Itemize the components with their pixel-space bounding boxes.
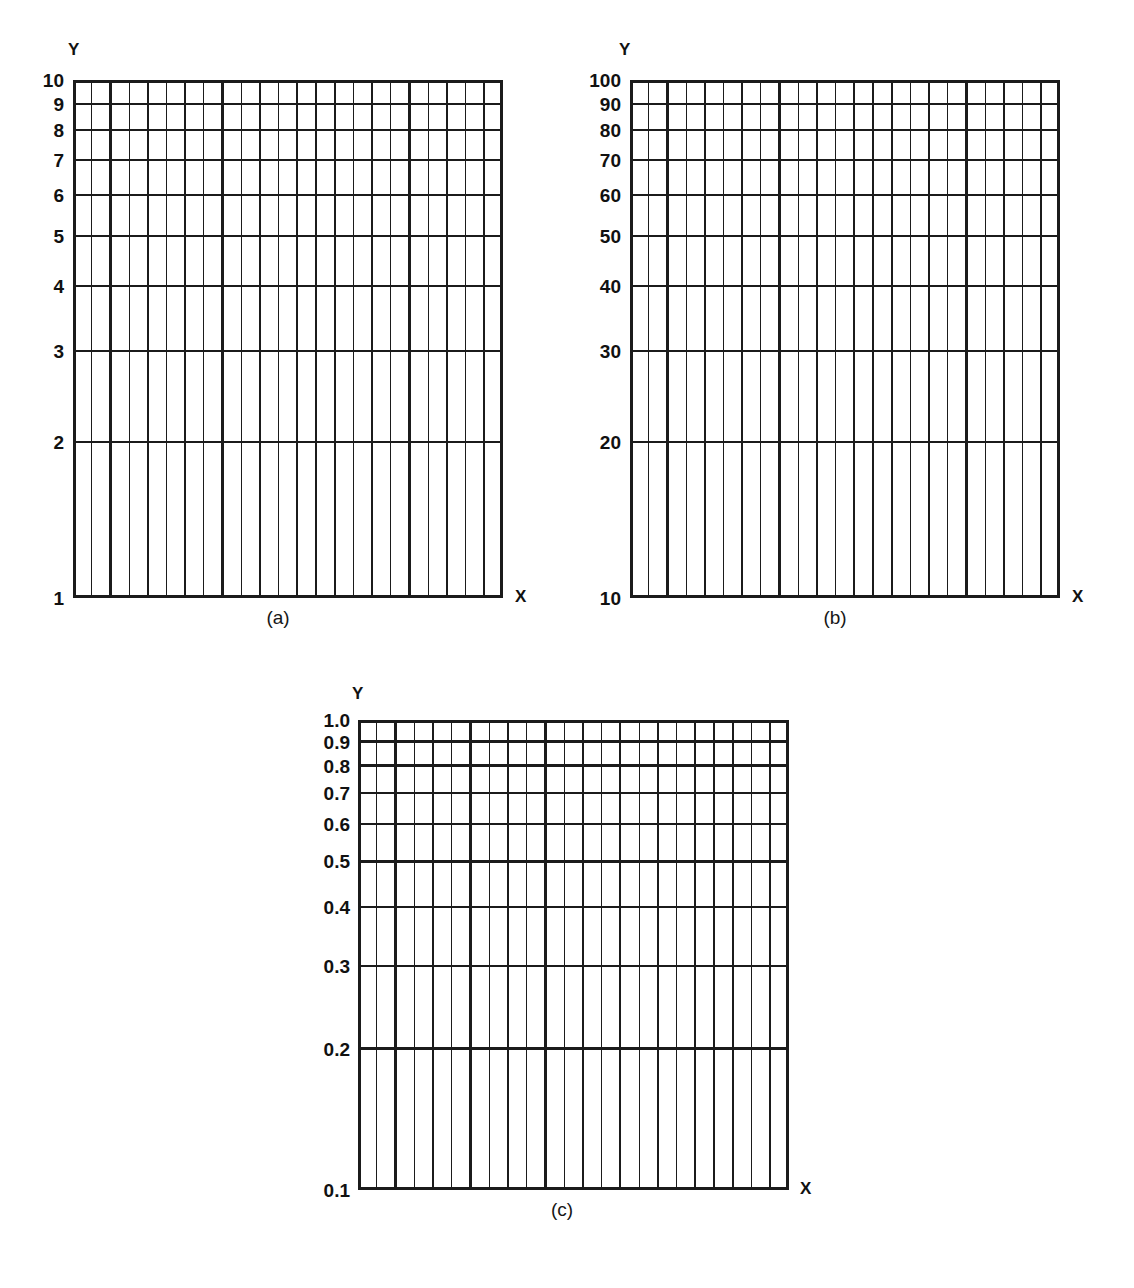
y-tick-label: 70 [600, 151, 621, 170]
panel-b-plot-grid [630, 80, 1060, 598]
panel-b: Y 100908070605040302010 X (b) [557, 0, 1134, 640]
y-tick-label: 90 [600, 94, 621, 113]
y-tick-label: 40 [600, 277, 621, 296]
y-tick-label: 7 [53, 151, 64, 170]
y-tick-label: 0.4 [324, 898, 350, 917]
y-tick-label: 0.8 [324, 756, 350, 775]
y-tick-label: 0.5 [324, 852, 350, 871]
y-tick-label: 60 [600, 185, 621, 204]
y-tick-label: 8 [53, 121, 64, 140]
y-tick-label: 0.7 [324, 783, 350, 802]
y-tick-label: 0.2 [324, 1039, 350, 1058]
panel-c-y-axis-title: Y [352, 685, 363, 702]
y-tick-label: 4 [53, 277, 64, 296]
y-tick-label: 10 [43, 71, 64, 90]
panel-b-caption: (b) [805, 608, 865, 627]
y-tick-label: 1 [53, 589, 64, 608]
panel-a: Y 10987654321 X (a) [0, 0, 560, 640]
panel-c-x-axis-title: X [800, 1180, 811, 1197]
panel-a-y-axis-title: Y [68, 41, 79, 58]
panel-b-x-axis-title: X [1072, 588, 1083, 605]
y-tick-label: 5 [53, 226, 64, 245]
y-tick-label: 0.3 [324, 956, 350, 975]
panel-a-x-axis-title: X [515, 588, 526, 605]
y-tick-label: 80 [600, 121, 621, 140]
panel-c-y-tick-labels: 1.00.90.80.70.60.50.40.30.20.1 [284, 648, 350, 1288]
y-tick-label: 2 [53, 433, 64, 452]
y-tick-label: 9 [53, 94, 64, 113]
y-tick-label: 1.0 [324, 711, 350, 730]
y-tick-label: 3 [53, 341, 64, 360]
panel-c-plot-grid [358, 720, 789, 1190]
y-tick-label: 6 [53, 185, 64, 204]
y-tick-label: 0.6 [324, 815, 350, 834]
y-tick-label: 0.1 [324, 1181, 350, 1200]
panel-a-caption: (a) [248, 608, 308, 627]
panel-c-caption: (c) [532, 1200, 592, 1219]
y-tick-label: 30 [600, 341, 621, 360]
panel-a-y-tick-labels: 10987654321 [0, 0, 64, 640]
panel-b-y-tick-labels: 100908070605040302010 [557, 0, 621, 640]
y-tick-label: 100 [589, 71, 621, 90]
y-tick-label: 20 [600, 433, 621, 452]
y-tick-label: 0.9 [324, 732, 350, 751]
y-tick-label: 10 [600, 589, 621, 608]
semilog-graph-paper-figure: Y 10987654321 X (a) Y 100908070605040302… [0, 0, 1134, 1288]
y-tick-label: 50 [600, 226, 621, 245]
panel-a-plot-grid [73, 80, 503, 598]
panel-c: Y 1.00.90.80.70.60.50.40.30.20.1 X (c) [284, 648, 864, 1288]
